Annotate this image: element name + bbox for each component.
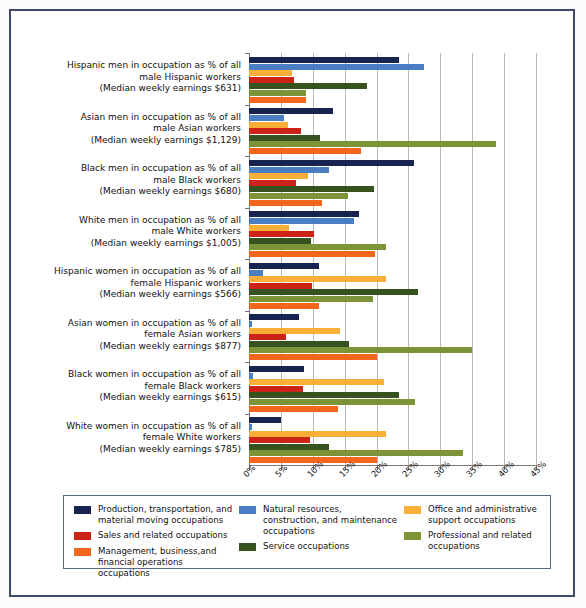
y-axis-label-line: (Median weekly earnings $566) bbox=[39, 289, 241, 301]
bar bbox=[249, 77, 294, 83]
legend-swatch-service bbox=[239, 543, 256, 551]
legend-swatch-professional bbox=[404, 532, 421, 540]
bar bbox=[249, 366, 304, 372]
legend-item[interactable]: Natural resources, construction, and mai… bbox=[239, 504, 399, 537]
bar bbox=[249, 180, 296, 186]
bar bbox=[249, 135, 320, 141]
y-axis-label-line: (Median weekly earnings $1,129) bbox=[39, 135, 241, 147]
bar bbox=[249, 270, 263, 276]
y-axis-label: Hispanic men in occupation as % of allma… bbox=[39, 60, 241, 95]
plot-area bbox=[249, 53, 536, 465]
legend-item[interactable]: Management, business,and financial opera… bbox=[74, 546, 234, 579]
legend-label: Service occupations bbox=[263, 541, 399, 552]
legend-column: Office and administrative support occupa… bbox=[404, 504, 544, 556]
bar-group bbox=[249, 259, 536, 311]
y-axis-label-line: Hispanic men in occupation as % of all bbox=[39, 60, 241, 72]
bar bbox=[249, 115, 284, 121]
y-axis-label-line: female Asian workers bbox=[39, 329, 241, 341]
y-axis-label: Black women in occupation as % of allfem… bbox=[39, 369, 241, 404]
bar bbox=[249, 321, 252, 327]
bar bbox=[249, 70, 292, 76]
legend-item[interactable]: Production, transportation, and material… bbox=[74, 504, 234, 526]
bar bbox=[249, 225, 289, 231]
bar bbox=[249, 276, 386, 282]
y-axis-label-line: Hispanic women in occupation as % of all bbox=[39, 266, 241, 278]
y-axis-label-line: Black men in occupation as % of all bbox=[39, 163, 241, 175]
y-axis-label-line: (Median weekly earnings $631) bbox=[39, 83, 241, 95]
bar bbox=[249, 64, 424, 70]
y-axis-label-line: male White workers bbox=[39, 226, 241, 238]
y-axis-label: Asian women in occupation as % of allfem… bbox=[39, 318, 241, 353]
y-axis-label-line: Asian men in occupation as % of all bbox=[39, 112, 241, 124]
bar bbox=[249, 431, 386, 437]
bar bbox=[249, 437, 310, 443]
bar bbox=[249, 303, 319, 309]
legend-item[interactable]: Service occupations bbox=[239, 541, 399, 553]
bar bbox=[249, 251, 375, 257]
chart-page: Hispanic men in occupation as % of allma… bbox=[0, 0, 586, 608]
bar bbox=[249, 289, 418, 295]
y-axis-label-line: (Median weekly earnings $1,005) bbox=[39, 238, 241, 250]
bar bbox=[249, 450, 463, 456]
y-axis-label-line: (Median weekly earnings $615) bbox=[39, 392, 241, 404]
legend-label: Production, transportation, and material… bbox=[98, 504, 234, 526]
legend-swatch-management bbox=[74, 548, 91, 556]
bar bbox=[249, 314, 299, 320]
legend-item[interactable]: Sales and related occupations bbox=[74, 530, 234, 542]
y-axis-label-line: Asian women in occupation as % of all bbox=[39, 318, 241, 330]
y-axis-label: Black men in occupation as % of allmale … bbox=[39, 163, 241, 198]
bar-group bbox=[249, 362, 536, 414]
legend-column: Production, transportation, and material… bbox=[74, 504, 234, 583]
bar bbox=[249, 128, 301, 134]
legend-label: Sales and related occupations bbox=[98, 530, 234, 541]
group-separator bbox=[245, 362, 250, 363]
chart-legend: Production, transportation, and material… bbox=[63, 495, 551, 569]
bar bbox=[249, 167, 329, 173]
group-separator bbox=[245, 259, 250, 260]
legend-swatch-office bbox=[404, 506, 421, 514]
bar bbox=[249, 200, 322, 206]
bar bbox=[249, 417, 281, 423]
bar-group bbox=[249, 105, 536, 157]
legend-swatch-production bbox=[74, 506, 91, 514]
legend-label: Natural resources, construction, and mai… bbox=[263, 504, 399, 537]
y-axis-label-line: male Black workers bbox=[39, 175, 241, 187]
y-axis-label: Hispanic women in occupation as % of all… bbox=[39, 266, 241, 301]
group-separator bbox=[245, 156, 250, 157]
legend-column: Natural resources, construction, and mai… bbox=[239, 504, 399, 557]
bar bbox=[249, 457, 377, 463]
bar bbox=[249, 186, 374, 192]
bar bbox=[249, 141, 496, 147]
y-axis-label-line: female Hispanic workers bbox=[39, 278, 241, 290]
legend-item[interactable]: Professional and related occupations bbox=[404, 530, 544, 552]
x-axis-line bbox=[249, 465, 536, 466]
legend-label: Management, business,and financial opera… bbox=[98, 546, 234, 579]
y-axis-label: White women in occupation as % of allfem… bbox=[39, 421, 241, 456]
bar bbox=[249, 211, 359, 217]
bar bbox=[249, 424, 252, 430]
bar bbox=[249, 444, 329, 450]
group-separator bbox=[245, 414, 250, 415]
legend-item[interactable]: Office and administrative support occupa… bbox=[404, 504, 544, 526]
group-separator bbox=[245, 311, 250, 312]
bar bbox=[249, 160, 414, 166]
bar bbox=[249, 218, 354, 224]
y-axis-label-line: (Median weekly earnings $785) bbox=[39, 444, 241, 456]
y-axis-label-line: White women in occupation as % of all bbox=[39, 421, 241, 433]
group-separator bbox=[245, 53, 250, 54]
chart-frame: Hispanic men in occupation as % of allma… bbox=[9, 9, 575, 597]
bar bbox=[249, 373, 253, 379]
y-axis-label-line: female Black workers bbox=[39, 381, 241, 393]
gridline-45% bbox=[536, 53, 537, 465]
bar-group bbox=[249, 311, 536, 363]
y-axis-label-line: White men in occupation as % of all bbox=[39, 215, 241, 227]
y-axis-label: White men in occupation as % of allmale … bbox=[39, 215, 241, 250]
y-axis-label-line: male Hispanic workers bbox=[39, 72, 241, 84]
y-axis-label-line: (Median weekly earnings $877) bbox=[39, 341, 241, 353]
bar bbox=[249, 238, 311, 244]
bar bbox=[249, 122, 288, 128]
bar-group bbox=[249, 156, 536, 208]
y-axis-label-line: male Asian workers bbox=[39, 123, 241, 135]
bar bbox=[249, 57, 399, 63]
bar-group bbox=[249, 208, 536, 260]
